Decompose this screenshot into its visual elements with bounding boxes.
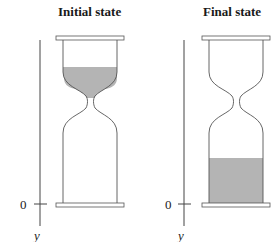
bottom-cap-left	[56, 203, 124, 207]
y-label-left: y	[32, 228, 40, 242]
hourglass-diagram: 0 y 0 y	[0, 0, 280, 242]
top-cap-left	[56, 36, 124, 40]
glass-outline-left	[63, 40, 117, 203]
y-label-right: y	[176, 228, 184, 242]
bottom-cap-right	[202, 203, 270, 207]
sand-lower-right	[209, 158, 263, 203]
zero-label-left: 0	[20, 197, 27, 212]
initial-state-panel: 0 y	[20, 36, 124, 242]
sand-upper-left-body	[63, 67, 117, 98]
top-cap-right	[202, 36, 270, 40]
final-state-panel: 0 y	[165, 36, 270, 242]
zero-label-right: 0	[165, 197, 172, 212]
